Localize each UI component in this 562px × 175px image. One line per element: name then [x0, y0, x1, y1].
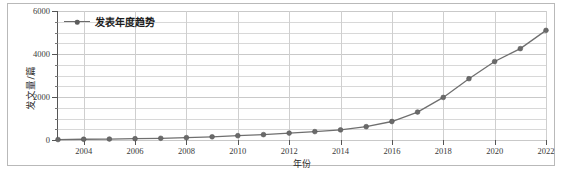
x-tick-label: 2012: [281, 147, 298, 156]
chart-figure: 发文量/篇 年份 0200040006000 20042006200820102…: [0, 0, 562, 175]
x-tick: [392, 140, 393, 145]
data-point: [364, 124, 369, 129]
y-tick-label: 6000: [33, 7, 50, 16]
x-axis-title: 年份: [293, 157, 311, 170]
x-tick-label: 2010: [229, 147, 246, 156]
x-tick-label: 2016: [383, 147, 400, 156]
data-point: [312, 129, 317, 134]
data-point: [235, 133, 240, 138]
data-point: [133, 136, 138, 141]
data-point: [107, 137, 112, 142]
legend-marker-icon: [75, 20, 80, 25]
data-point: [441, 95, 446, 100]
data-point: [210, 134, 215, 139]
legend-label: 发表年度趋势: [95, 14, 155, 29]
x-tick-label: 2014: [332, 147, 349, 156]
series-path-publication-trend: [58, 30, 546, 139]
data-point: [415, 110, 420, 115]
data-point: [287, 131, 292, 136]
y-axis-title: 发文量/篇: [23, 66, 37, 109]
data-point: [338, 127, 343, 132]
x-tick: [546, 140, 547, 145]
x-tick-label: 2008: [178, 147, 195, 156]
x-tick: [341, 140, 342, 145]
y-tick-label: 4000: [33, 50, 50, 59]
chart-legend: 发表年度趋势: [60, 12, 159, 31]
y-tick-label: 2000: [33, 93, 50, 102]
series-markers: [56, 28, 549, 142]
data-point: [544, 28, 549, 33]
data-point: [56, 137, 61, 142]
data-point: [467, 76, 472, 81]
x-tick-label: 2020: [486, 147, 503, 156]
legend-line-swatch: [64, 21, 90, 22]
data-point: [389, 119, 394, 124]
x-tick-label: 2006: [127, 147, 144, 156]
data-point: [261, 132, 266, 137]
x-tick-label: 2004: [75, 147, 92, 156]
data-point: [518, 46, 523, 51]
data-point: [492, 59, 497, 64]
x-tick: [495, 140, 496, 145]
x-tick-label: 2022: [538, 147, 555, 156]
gridline-horizontal: [58, 140, 546, 141]
data-point: [184, 135, 189, 140]
x-tick: [186, 140, 187, 145]
data-point: [158, 136, 163, 141]
x-tick: [443, 140, 444, 145]
x-tick-label: 2018: [435, 147, 452, 156]
x-tick: [238, 140, 239, 145]
y-tick-label: 0: [46, 136, 50, 145]
x-tick: [289, 140, 290, 145]
data-point: [81, 137, 86, 142]
